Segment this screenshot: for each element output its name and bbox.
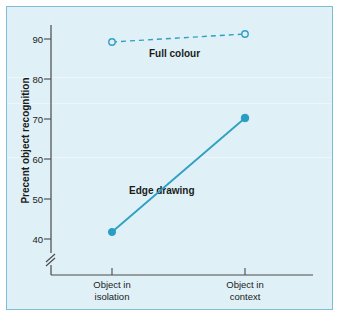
figure-caption-partial [8, 316, 333, 326]
series-line-full-colour [112, 34, 245, 42]
series-line-edge-drawing [112, 118, 245, 232]
chart-panel: Precent object recognition 90 80 70 60 5… [6, 6, 333, 310]
data-point-full-colour-context [242, 31, 248, 37]
data-point-edge-drawing-context [241, 114, 249, 122]
plot-area [7, 7, 334, 311]
data-point-full-colour-isolation [109, 39, 115, 45]
axis-break-mark [46, 258, 55, 266]
axis-break-mark [46, 254, 55, 262]
data-point-edge-drawing-isolation [108, 228, 115, 235]
figure: Precent object recognition 90 80 70 60 5… [0, 0, 339, 328]
